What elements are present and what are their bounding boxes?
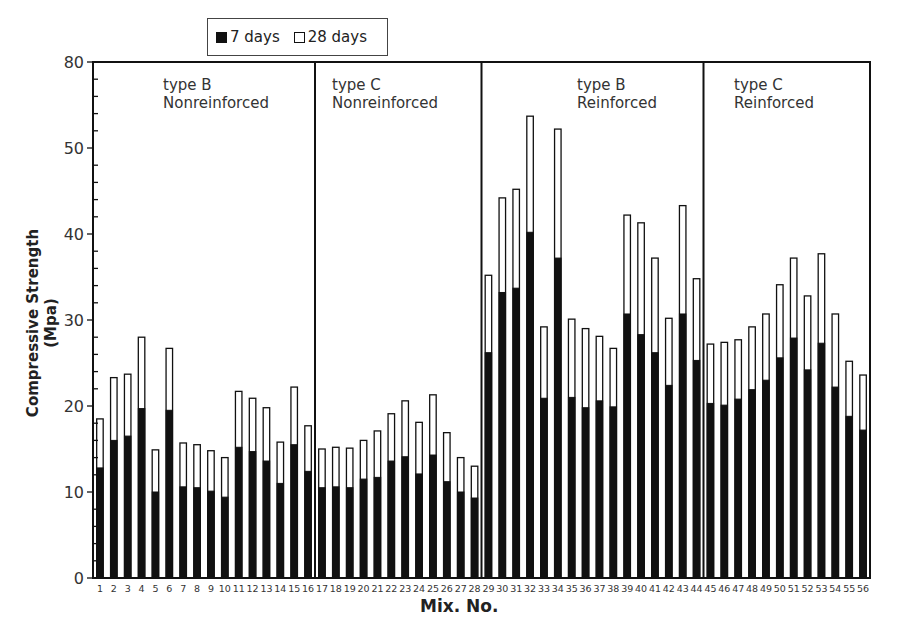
x-tick-label: 6 [166, 583, 172, 594]
bar-7-days [444, 482, 451, 578]
x-tick-label: 22 [385, 583, 397, 594]
x-tick-label: 35 [566, 583, 578, 594]
y-tick-label: 30 [64, 311, 84, 330]
bar-7-days [180, 487, 187, 578]
y-tick-label: 0 [74, 569, 84, 588]
x-tick-label: 19 [344, 583, 356, 594]
x-tick-label: 3 [125, 583, 131, 594]
legend-item-7-days: 7 days [216, 28, 280, 46]
bar-7-days [208, 491, 215, 578]
group-label-reinforcement: Nonreinforced [163, 94, 269, 112]
x-tick-label: 16 [302, 583, 314, 594]
bar-7-days [721, 405, 728, 578]
x-tick-label: 32 [524, 583, 536, 594]
bar-7-days [430, 455, 437, 578]
group-label-type: type C [332, 76, 381, 94]
y-axis-label: Compressive Strength (Mpa) [24, 223, 60, 423]
x-tick-label: 27 [455, 583, 467, 594]
bar-7-days [471, 498, 478, 578]
bar-7-days [166, 410, 173, 578]
bar-7-days [319, 488, 326, 578]
bar-7-days [666, 385, 673, 578]
group-label-reinforcement: Reinforced [577, 94, 657, 112]
x-tick-label: 56 [857, 583, 869, 594]
y-tick-label: 80 [64, 53, 84, 72]
x-tick-label: 9 [208, 583, 214, 594]
bar-7-days [291, 445, 298, 578]
x-tick-label: 49 [760, 583, 772, 594]
group-label-type: type B [577, 76, 626, 94]
legend: 7 days 28 days [207, 18, 388, 56]
x-tick-label: 48 [746, 583, 758, 594]
x-tick-label: 38 [607, 583, 619, 594]
x-tick-label: 30 [496, 583, 508, 594]
bar-7-days [305, 471, 312, 578]
bar-7-days [790, 338, 797, 578]
x-tick-label: 10 [219, 583, 231, 594]
x-tick-label: 41 [649, 583, 661, 594]
x-tick-label: 42 [663, 583, 675, 594]
bar-7-days [749, 390, 756, 578]
y-tick-label: 40 [64, 225, 84, 244]
bar-7-days [499, 292, 506, 578]
x-tick-label: 45 [704, 583, 716, 594]
group-label-type: type C [734, 76, 783, 94]
x-tick-label: 13 [260, 583, 272, 594]
bar-7-days [416, 474, 423, 578]
bar-7-days [763, 380, 770, 578]
x-tick-label: 40 [635, 583, 647, 594]
bar-7-days [388, 461, 395, 578]
x-tick-label: 31 [510, 583, 522, 594]
bar-7-days [235, 447, 242, 578]
x-tick-label: 44 [691, 583, 703, 594]
x-tick-label: 4 [139, 583, 145, 594]
bar-7-days [263, 461, 270, 578]
x-tick-label: 53 [815, 583, 827, 594]
bar-plot: 1234567891011121314151617181920212223242… [0, 0, 897, 629]
bar-7-days [194, 488, 201, 578]
x-tick-label: 12 [247, 583, 259, 594]
x-tick-label: 1 [97, 583, 103, 594]
x-tick-label: 15 [288, 583, 300, 594]
legend-label-7-days: 7 days [230, 28, 280, 46]
bar-7-days [804, 370, 811, 578]
bar-7-days [97, 468, 104, 578]
group-label-reinforcement: Reinforced [734, 94, 814, 112]
bar-7-days [582, 408, 589, 578]
bar-7-days [402, 457, 409, 578]
bar-7-days [555, 258, 562, 578]
x-tick-label: 7 [180, 583, 186, 594]
bar-7-days [693, 360, 700, 578]
x-tick-label: 20 [358, 583, 370, 594]
bar-7-days [777, 358, 784, 578]
x-tick-label: 5 [152, 583, 158, 594]
group-label-type: type B [163, 76, 212, 94]
bar-7-days [818, 343, 825, 578]
bar-7-days [638, 335, 645, 578]
bar-7-days [277, 483, 284, 578]
bar-7-days [346, 488, 353, 578]
bar-7-days [138, 409, 145, 578]
x-tick-label: 55 [843, 583, 855, 594]
x-tick-label: 37 [593, 583, 605, 594]
bar-7-days [374, 477, 381, 578]
bar-7-days [485, 353, 492, 578]
bar-7-days [541, 398, 548, 578]
bar-7-days [860, 430, 867, 578]
x-tick-label: 34 [552, 583, 564, 594]
x-tick-label: 18 [330, 583, 342, 594]
x-tick-label: 46 [718, 583, 730, 594]
bar-7-days [513, 288, 520, 578]
x-tick-label: 43 [677, 583, 689, 594]
bar-7-days [222, 497, 229, 578]
x-tick-label: 50 [774, 583, 786, 594]
x-tick-label: 54 [829, 583, 841, 594]
x-tick-label: 28 [469, 583, 481, 594]
x-tick-label: 11 [233, 583, 245, 594]
bar-7-days [152, 492, 159, 578]
x-tick-label: 26 [441, 583, 453, 594]
x-tick-label: 36 [580, 583, 592, 594]
y-tick-label: 50 [64, 139, 84, 158]
x-tick-label: 47 [732, 583, 744, 594]
x-tick-label: 17 [316, 583, 328, 594]
